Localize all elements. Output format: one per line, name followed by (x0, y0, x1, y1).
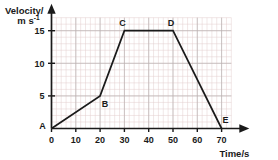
data-point-label-b: B (102, 99, 109, 109)
x-axis-title: Time/s (219, 148, 249, 159)
y-tick-label: 5 (39, 91, 44, 101)
y-axis-title-exponent: -1 (34, 14, 40, 21)
y-tick-label: 15 (34, 26, 44, 36)
x-tick-label: 30 (119, 135, 129, 145)
x-tick-label: 60 (192, 135, 202, 145)
x-tick-label: 40 (144, 135, 154, 145)
data-point-label-d: D (168, 18, 175, 28)
data-point-label-a: A (39, 121, 46, 131)
data-point-label-e: E (223, 115, 229, 125)
x-tick-label: 10 (71, 135, 81, 145)
y-tick-label: 10 (34, 59, 44, 69)
x-tick-label: 50 (168, 135, 178, 145)
x-tick-label: 0 (49, 135, 54, 145)
y-axis-title-unit: m s (17, 15, 33, 26)
x-tick-label: 20 (95, 135, 105, 145)
velocity-time-graph-figure: 010203040506070 51015 ABCDE Velocity/ m … (0, 0, 278, 160)
x-tick-label: 70 (217, 135, 227, 145)
data-point-label-c: C (119, 18, 126, 28)
velocity-time-chart: 010203040506070 51015 ABCDE Velocity/ m … (0, 0, 278, 160)
